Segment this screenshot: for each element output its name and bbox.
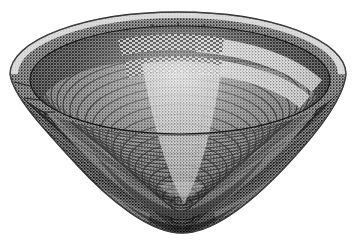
basket-illustration (0, 0, 357, 251)
image-canvas: Halftone engraving of a wide conical coi… (0, 0, 357, 251)
